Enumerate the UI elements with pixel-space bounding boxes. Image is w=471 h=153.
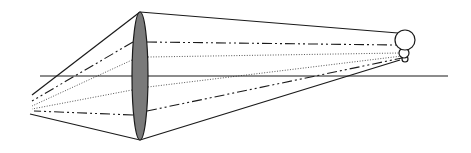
ray-right-dotted-2 (148, 53, 400, 57)
ray-right-dashdot-4 (147, 58, 402, 111)
object-circle-head (395, 30, 415, 50)
ray-right-dashdot-1 (147, 42, 396, 45)
converging-lens (132, 12, 148, 140)
ray-right-solid-0 (140, 12, 398, 33)
ray-left-dashdot-1 (32, 42, 133, 101)
ray-left-solid-0 (32, 12, 140, 95)
ray-left-solid-5 (30, 114, 140, 140)
object-figure (395, 30, 415, 62)
ray-left-dashdot-4 (34, 111, 133, 115)
ray-diagram (0, 0, 471, 153)
